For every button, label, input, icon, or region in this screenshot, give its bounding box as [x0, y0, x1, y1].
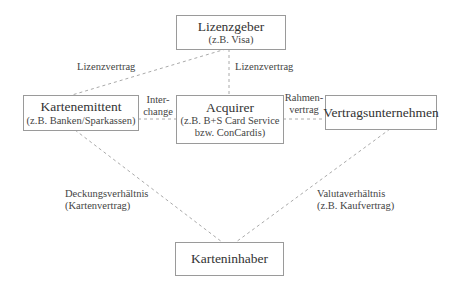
edge-label-text: Lizenzvertrag	[235, 61, 293, 72]
edge-label-text: vertrag	[284, 104, 324, 116]
node-acquirer: Acquirer (z.B. B+S Card Service bzw. Con…	[176, 95, 284, 144]
edge-label-lizenzvertrag-left: Lizenzvertrag	[77, 61, 135, 73]
edge-label-text: change	[141, 106, 175, 118]
edge-kartenemittent-karteninhaber	[75, 130, 222, 242]
edge-label-deckungsverhaeltnis: Deckungsverhältnis (Kartenvertrag)	[65, 188, 148, 211]
node-subtitle: bzw. ConCardis)	[195, 127, 265, 139]
node-subtitle: (z.B. Visa)	[209, 34, 254, 46]
node-title: Karteninhaber	[191, 251, 268, 267]
node-karteninhaber: Karteninhaber	[175, 242, 284, 276]
edge-label-text: Inter-	[141, 94, 175, 106]
edge-label-lizenzvertrag-center: Lizenzvertrag	[235, 61, 293, 73]
edge-label-text: (z.B. Kaufvertrag)	[317, 200, 394, 212]
edge-label-interchange: Inter- change	[141, 94, 175, 117]
edge-label-text: (Kartenvertrag)	[65, 200, 148, 212]
edge-label-text: Valutaverhältnis	[317, 188, 394, 200]
edge-label-valutaverhaeltnis: Valutaverhältnis (z.B. Kaufvertrag)	[317, 188, 394, 211]
node-kartenemittent: Kartenemittent (z.B. Banken/Sparkassen)	[23, 95, 139, 131]
node-lizenzgeber: Lizenzgeber (z.B. Visa)	[176, 15, 286, 50]
edge-label-text: Lizenzvertrag	[77, 61, 135, 72]
edge-label-rahmenvertrag: Rahmen- vertrag	[284, 92, 324, 115]
node-subtitle: (z.B. B+S Card Service	[181, 115, 280, 127]
node-title: Kartenemittent	[41, 99, 122, 115]
node-subtitle: (z.B. Banken/Sparkassen)	[27, 115, 136, 127]
edge-label-text: Deckungsverhältnis	[65, 188, 148, 200]
edge-label-text: Rahmen-	[284, 92, 324, 104]
node-title: Acquirer	[206, 100, 254, 116]
edge-vertragsunternehmen-karteninhaber	[236, 129, 390, 242]
node-title: Lizenzgeber	[198, 19, 265, 35]
node-title: Vertragsunternehmen	[323, 105, 438, 121]
node-vertragsunternehmen: Vertragsunternehmen	[325, 95, 437, 130]
